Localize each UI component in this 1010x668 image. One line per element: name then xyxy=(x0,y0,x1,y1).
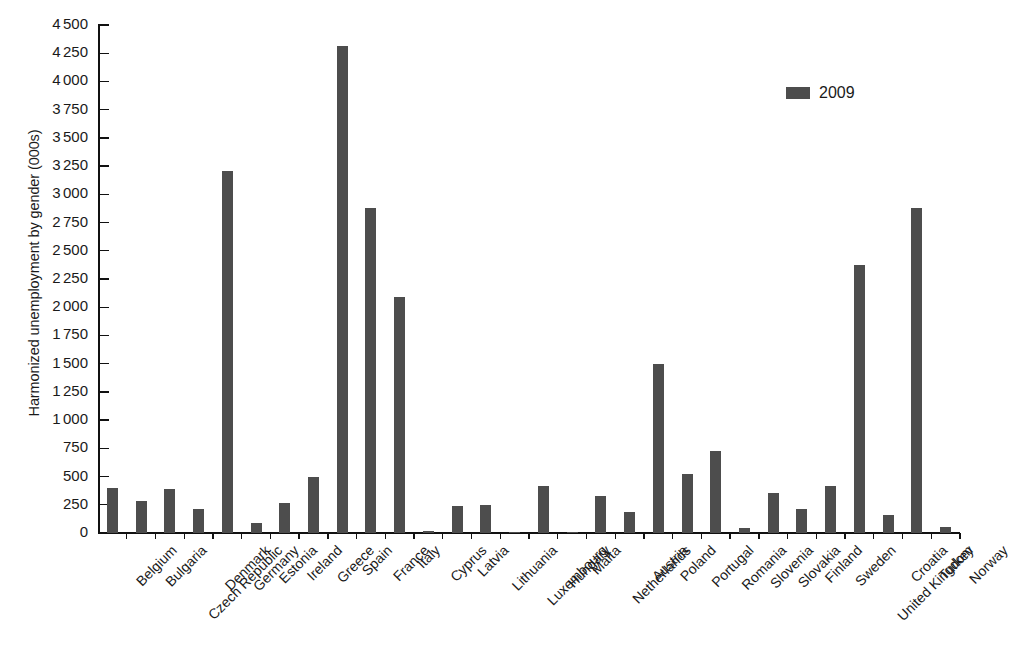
x-axis-tick xyxy=(873,533,874,539)
x-axis-tick-label: Czech Republic xyxy=(205,542,286,623)
x-axis-tick xyxy=(672,533,673,539)
bar xyxy=(107,488,118,533)
bar xyxy=(394,297,405,533)
bar xyxy=(854,265,865,533)
bar xyxy=(480,505,491,533)
y-axis-tick-label: 0 xyxy=(0,523,88,540)
x-axis-tick xyxy=(902,533,903,539)
bar xyxy=(136,501,147,533)
y-axis-tick-label: 2250 xyxy=(0,269,88,286)
x-axis-tick xyxy=(298,533,299,539)
bar xyxy=(768,493,779,533)
x-axis-tick xyxy=(729,533,730,539)
y-axis-tick-label: 3750 xyxy=(0,100,88,117)
y-axis-tick-label: 2000 xyxy=(0,297,88,314)
bar xyxy=(452,506,463,533)
y-axis-tick-label: 3000 xyxy=(0,184,88,201)
x-axis-tick xyxy=(155,533,156,539)
x-axis-tick xyxy=(701,533,702,539)
bar xyxy=(710,451,721,533)
bar xyxy=(423,531,434,533)
y-axis-tick-label: 4250 xyxy=(0,43,88,60)
x-axis-tick xyxy=(931,533,932,539)
bar xyxy=(509,532,520,534)
bar xyxy=(538,486,549,533)
bar xyxy=(222,171,233,533)
x-axis-tick xyxy=(471,533,472,539)
y-axis-tick-label: 2500 xyxy=(0,241,88,258)
x-axis-tick-label: Lithuania xyxy=(509,542,560,593)
x-axis-tick xyxy=(241,533,242,539)
bar xyxy=(595,496,606,533)
x-axis-tick xyxy=(500,533,501,539)
x-axis-tick xyxy=(959,533,960,539)
bar xyxy=(365,208,376,533)
bar xyxy=(739,528,750,533)
y-axis-tick-label: 2750 xyxy=(0,213,88,230)
bar xyxy=(308,477,319,533)
x-axis-tick xyxy=(442,533,443,539)
square-swatch-icon xyxy=(786,87,810,99)
x-axis-tick xyxy=(385,533,386,539)
y-axis-tick-label: 1750 xyxy=(0,325,88,342)
y-axis-tick-label: 4000 xyxy=(0,71,88,88)
x-axis-tick xyxy=(356,533,357,539)
bar xyxy=(624,512,635,533)
x-axis-tick xyxy=(615,533,616,539)
bar xyxy=(796,509,807,533)
y-axis-tick-label: 1250 xyxy=(0,382,88,399)
bar xyxy=(193,509,204,533)
chart-legend: 2009 xyxy=(786,84,855,102)
x-axis-tick xyxy=(643,533,644,539)
bar xyxy=(164,489,175,533)
x-axis-tick xyxy=(327,533,328,539)
x-axis-tick xyxy=(528,533,529,539)
y-axis-tick-label: 250 xyxy=(0,495,88,512)
x-axis-tick xyxy=(184,533,185,539)
y-axis-tick-label: 500 xyxy=(0,467,88,484)
x-axis-tick xyxy=(557,533,558,539)
bar xyxy=(251,523,262,533)
bar xyxy=(883,515,894,533)
y-axis-tick-label: 4500 xyxy=(0,15,88,32)
bar xyxy=(825,486,836,533)
bar xyxy=(653,364,664,533)
y-axis-tick-label: 1000 xyxy=(0,410,88,427)
y-axis-tick-label: 3500 xyxy=(0,128,88,145)
legend-entry-label: 2009 xyxy=(819,84,855,102)
x-axis-tick xyxy=(212,533,213,539)
x-axis-tick xyxy=(126,533,127,539)
x-axis-tick xyxy=(787,533,788,539)
y-axis-tick-label: 750 xyxy=(0,438,88,455)
x-axis-tick xyxy=(816,533,817,539)
bar xyxy=(279,503,290,533)
x-axis-tick xyxy=(270,533,271,539)
x-axis-tick xyxy=(413,533,414,539)
y-axis-tick-label: 1500 xyxy=(0,354,88,371)
bar xyxy=(911,208,922,533)
bar xyxy=(337,46,348,533)
bar xyxy=(682,474,693,533)
bar xyxy=(940,527,951,533)
x-axis-tick xyxy=(844,533,845,539)
x-axis-tick xyxy=(586,533,587,539)
x-axis-tick xyxy=(758,533,759,539)
bar xyxy=(567,532,578,534)
y-axis-tick-label: 3250 xyxy=(0,156,88,173)
